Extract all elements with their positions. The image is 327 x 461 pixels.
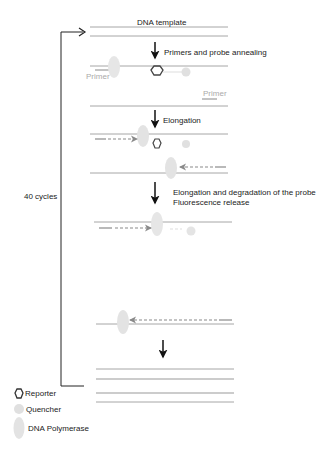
primer-label-right: Primer bbox=[203, 89, 227, 99]
cycle-count-label: 40 cycles bbox=[24, 192, 57, 202]
cycle-loop-arrow bbox=[61, 28, 85, 386]
legend-reporter-label: Reporter bbox=[25, 389, 56, 399]
legend-reporter-icon bbox=[15, 389, 23, 398]
legend-quencher-label: Quencher bbox=[26, 405, 61, 415]
legend-polymerase-label: DNA Polymerase bbox=[28, 424, 89, 434]
reverse-elongation-stage bbox=[96, 310, 234, 334]
primer-label-left: Primer bbox=[86, 72, 110, 82]
step-label-template: DNA template bbox=[137, 18, 186, 28]
step-label-degradation: Elongation and degradation of the probe bbox=[173, 188, 316, 198]
degradation-stage bbox=[94, 212, 232, 236]
pcr-diagram: DNA template Primers and probe annealing… bbox=[0, 0, 327, 461]
quencher-icon bbox=[182, 68, 191, 77]
legend-quencher-icon bbox=[14, 404, 24, 414]
elongation-stage bbox=[90, 125, 228, 179]
step-label-annealing: Primers and probe annealing bbox=[164, 48, 267, 58]
reporter-icon bbox=[151, 66, 163, 75]
legend-polymerase-icon bbox=[14, 417, 25, 439]
step-label-elongation: Elongation bbox=[163, 116, 201, 126]
dna-template bbox=[90, 27, 228, 36]
amplified-dna bbox=[96, 369, 234, 402]
step-label-fluorescence: Fluorescence release bbox=[173, 198, 249, 208]
